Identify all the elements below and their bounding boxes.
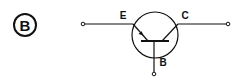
base-terminal (152, 72, 156, 76)
option-badge: B (14, 14, 36, 36)
collector-label: C (181, 10, 188, 21)
emitter-label: E (120, 10, 127, 21)
emitter-terminal (81, 22, 85, 26)
collector-terminal (226, 22, 230, 26)
transistor-diagram: B E C B (0, 0, 241, 83)
collector-leg (162, 24, 178, 41)
base-label: B (159, 57, 166, 68)
transistor-envelope (132, 12, 178, 58)
option-letter: B (20, 17, 31, 34)
